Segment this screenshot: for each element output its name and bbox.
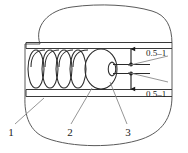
body-outline xyxy=(25,5,172,146)
dimension-label-bottom: 0.5–1 xyxy=(146,89,166,99)
callout-label-2: 2 xyxy=(67,126,73,138)
dimension-label-top: 0.5–1 xyxy=(146,48,166,58)
diagram-canvas: 0.5–1 0.5–1 1 2 3 xyxy=(0,0,188,153)
callout-label-1: 1 xyxy=(8,126,14,138)
technical-diagram: 0.5–1 0.5–1 1 2 3 xyxy=(0,0,188,153)
callout-label-3: 3 xyxy=(125,126,131,138)
